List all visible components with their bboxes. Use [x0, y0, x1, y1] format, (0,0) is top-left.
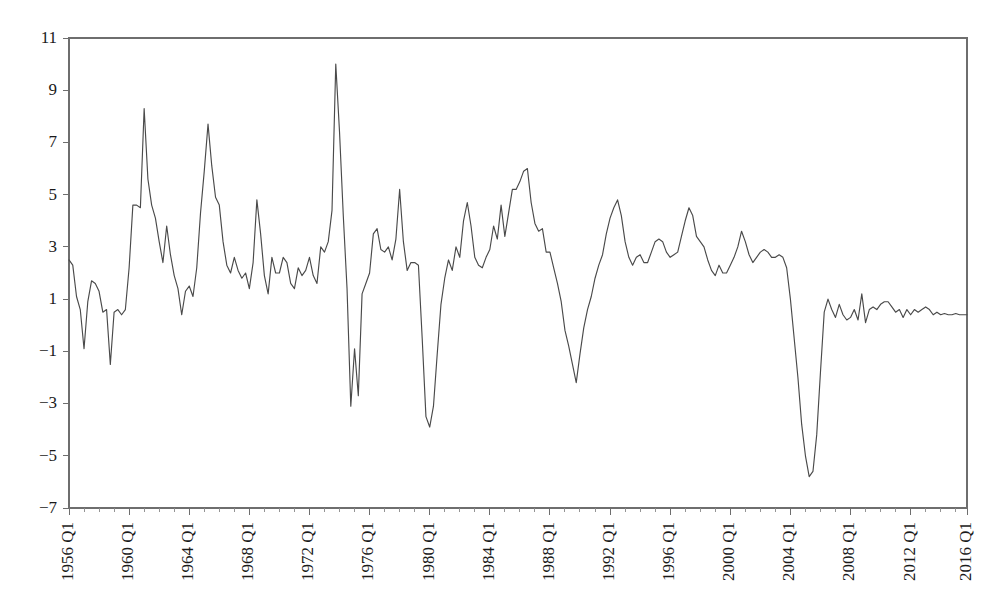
x-axis-tick-label: 2004 Q1 — [779, 522, 798, 581]
x-axis-tick-label: 1964 Q1 — [178, 522, 197, 581]
line-chart-plot: 1197531−1−3−5−7 1956 Q11960 Q11964 Q1196… — [0, 0, 1005, 616]
x-axis-tick-label: 1976 Q1 — [358, 522, 377, 581]
plot-frame — [69, 38, 967, 508]
chart-tick-marks — [63, 38, 967, 515]
y-axis-tick-label: 5 — [49, 185, 58, 204]
y-axis-tick-labels: 1197531−1−3−5−7 — [39, 28, 58, 517]
x-axis-tick-label: 1960 Q1 — [118, 522, 137, 581]
x-axis-tick-label: 2016 Q1 — [956, 522, 975, 581]
x-axis-tick-label: 1988 Q1 — [539, 522, 558, 581]
chart-container: 1197531−1−3−5−7 1956 Q11960 Q11964 Q1196… — [0, 0, 1005, 616]
x-axis-tick-label: 2012 Q1 — [900, 522, 919, 581]
y-axis-tick-label: 9 — [49, 80, 58, 99]
y-axis-tick-label: 3 — [49, 237, 58, 256]
x-axis-tick-label: 2000 Q1 — [719, 522, 738, 581]
y-axis-tick-label: 7 — [49, 132, 58, 151]
y-axis-tick-label: 1 — [49, 289, 58, 308]
x-axis-tick-label: 1956 Q1 — [58, 522, 77, 581]
x-axis-tick-label: 2008 Q1 — [839, 522, 858, 581]
y-axis-tick-label: −5 — [39, 446, 57, 465]
x-axis-tick-label: 1980 Q1 — [419, 522, 438, 581]
data-series-group — [69, 64, 967, 477]
x-axis-tick-labels: 1956 Q11960 Q11964 Q11968 Q11972 Q11976 … — [58, 522, 975, 581]
y-axis-tick-label: 11 — [41, 28, 57, 47]
x-axis-tick-label: 1972 Q1 — [298, 522, 317, 581]
y-axis-tick-label: −3 — [39, 393, 57, 412]
x-axis-tick-label: 1996 Q1 — [659, 522, 678, 581]
data-series-line — [69, 64, 967, 477]
y-axis-tick-label: −7 — [39, 498, 58, 517]
chart-axes — [69, 38, 967, 508]
x-axis-tick-label: 1968 Q1 — [238, 522, 257, 581]
x-axis-tick-label: 1984 Q1 — [479, 522, 498, 581]
x-axis-tick-label: 1992 Q1 — [599, 522, 618, 581]
y-axis-tick-label: −1 — [39, 341, 57, 360]
